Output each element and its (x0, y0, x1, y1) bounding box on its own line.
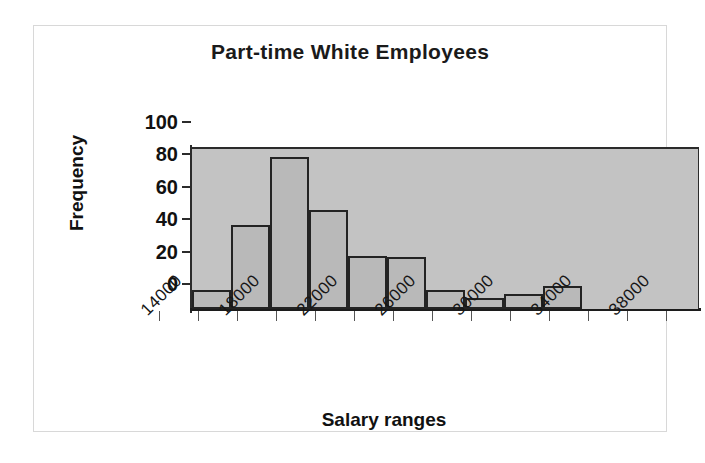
x-axis-tick (198, 311, 199, 321)
y-axis-tick (182, 251, 191, 253)
y-axis-tick-label: 20 (114, 242, 178, 262)
x-axis-tick (510, 311, 511, 321)
x-axis-tick (159, 311, 160, 321)
x-axis-tick (588, 311, 589, 321)
x-axis-tick (354, 311, 355, 321)
x-axis-tick (549, 311, 550, 321)
y-axis-tick-label: 80 (114, 144, 178, 164)
y-axis-tick-label: 60 (114, 177, 178, 197)
y-axis-tick (182, 218, 191, 220)
y-axis-title: Frequency (66, 118, 88, 248)
y-axis-tick (182, 121, 191, 123)
x-axis-title: Salary ranges (34, 409, 705, 431)
x-axis-tick (627, 311, 628, 321)
y-axis-tick-label: 40 (114, 209, 178, 229)
bar-series (192, 147, 699, 309)
y-axis-tick-labels: 020406080100 (108, 26, 178, 463)
y-axis-tick-label: 100 (114, 112, 178, 132)
x-axis-tick (276, 311, 277, 321)
y-axis-tick (182, 153, 191, 155)
y-axis-tick (182, 186, 191, 188)
x-axis-tick (666, 311, 667, 321)
x-axis-tick (315, 311, 316, 321)
plot-area-wrapper (192, 147, 699, 309)
x-axis-tick (471, 311, 472, 321)
x-axis-tick (432, 311, 433, 321)
bar (270, 157, 309, 309)
x-axis-tick (237, 311, 238, 321)
x-axis-tick (393, 311, 394, 321)
chart-frame: Part-time White Employees Frequency 0204… (33, 25, 667, 432)
